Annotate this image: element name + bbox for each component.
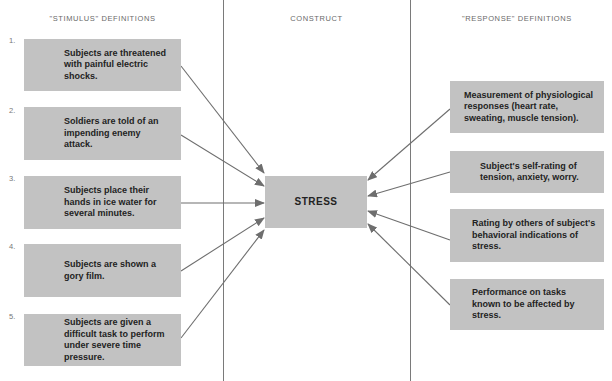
stimulus-number: 4. — [9, 242, 15, 251]
construct-label: STRESS — [294, 196, 337, 208]
stimulus-box: Subjects are threatened with painful ele… — [24, 39, 181, 91]
stimulus-box: Subjects are given a difficult task to p… — [24, 314, 181, 366]
stimulus-text: Subjects are threatened with painful ele… — [64, 48, 171, 83]
arrow-stimulus-1 — [181, 66, 264, 173]
stimulus-number: 5. — [9, 312, 15, 321]
construct-box: STRESS — [265, 176, 367, 228]
arrow-stimulus-2 — [181, 135, 264, 186]
stimulus-text: Subjects are shown a gory film. — [64, 259, 171, 282]
stimulus-number: 2. — [9, 106, 15, 115]
response-box: Measurement of physiological responses (… — [450, 81, 604, 133]
arrow-stimulus-4 — [181, 218, 264, 271]
response-text: Performance on tasks known to be affecte… — [472, 287, 596, 322]
stimulus-number: 3. — [9, 174, 15, 183]
response-text: Measurement of physiological responses (… — [464, 90, 596, 125]
stimulus-text: Subjects place their hands in ice water … — [64, 185, 171, 220]
response-box: Rating by others of subject's behavioral… — [450, 209, 604, 262]
arrow-stimulus-5 — [181, 230, 264, 338]
stimulus-box: Subjects are shown a gory film. — [24, 244, 181, 297]
arrow-response-1 — [368, 109, 450, 180]
stimulus-text: Subjects are given a difficult task to p… — [64, 317, 171, 363]
response-text: Rating by others of subject's behavioral… — [472, 218, 596, 253]
response-box: Subject's self-rating of tension, anxiet… — [450, 151, 604, 193]
response-box: Performance on tasks known to be affecte… — [450, 279, 604, 330]
stimulus-text: Soldiers are told of an impending enemy … — [64, 116, 171, 151]
arrow-response-2 — [368, 172, 450, 196]
stimulus-box: Subjects place their hands in ice water … — [24, 176, 181, 229]
stimulus-box: Soldiers are told of an impending enemy … — [24, 107, 181, 160]
response-text: Subject's self-rating of tension, anxiet… — [480, 161, 596, 184]
stimulus-number: 1. — [9, 36, 15, 45]
